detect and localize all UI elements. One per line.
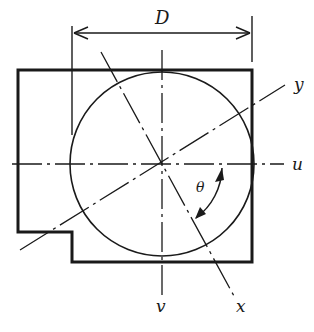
axis-u-label: u (292, 154, 303, 174)
section-outline (18, 70, 252, 262)
angle-label: θ (196, 179, 205, 195)
axis-v-label: v (156, 296, 166, 316)
axis-y-label: y (293, 74, 304, 94)
dimension-label: D (154, 7, 170, 28)
angle-arrow-bottom-icon (195, 207, 206, 219)
diagram-canvas: D u v y x θ (0, 0, 314, 332)
axis-x-label: x (236, 296, 246, 316)
axis-y (20, 85, 285, 250)
